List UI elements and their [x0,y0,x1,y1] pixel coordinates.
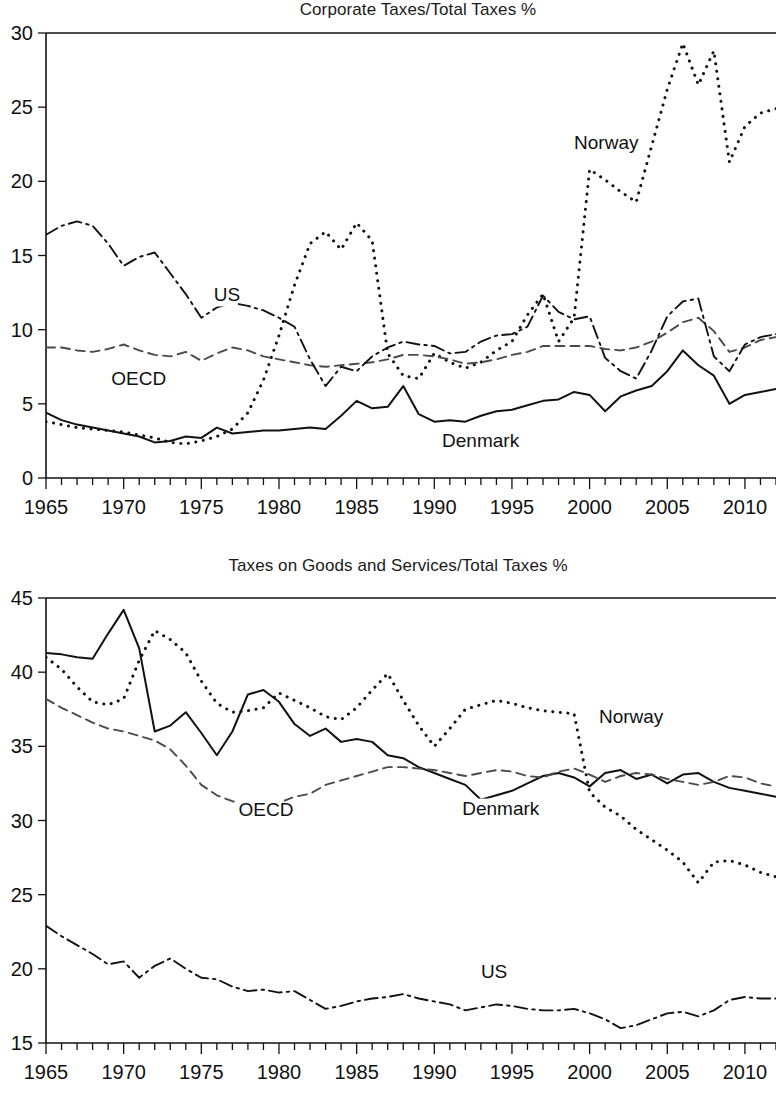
y-axis-tick-label: 5 [22,393,33,415]
x-axis-tick-label: 1990 [412,1061,457,1083]
y-axis-tick-label: 40 [11,661,33,683]
x-axis-tick-label: 1985 [334,1061,379,1083]
chart-title-corporate-taxes: Corporate Taxes/Total Taxes % [0,0,776,20]
y-axis-tick-label: 0 [22,467,33,489]
series-line-norway [46,631,776,883]
chart-title-goods-services-taxes: Taxes on Goods and Services/Total Taxes … [0,556,776,576]
series-label-denmark: Denmark [442,430,520,451]
chart-svg-corporate-taxes: 0510152025301965197019751980198519901995… [0,0,776,530]
series-label-oecd: OECD [111,368,166,389]
x-axis-tick-label: 1980 [257,1061,302,1083]
x-axis-tick-label: 2010 [723,1061,768,1083]
y-axis-tick-label: 25 [11,884,33,906]
chart-svg-goods-services-taxes: 1520253035404519651970197519801985199019… [0,556,776,1094]
series-label-oecd: OECD [239,799,294,820]
x-axis-tick-label: 2000 [567,1061,612,1083]
x-axis-tick-label: 2010 [723,496,768,518]
figure-two-panel-tax-charts: Corporate Taxes/Total Taxes % 0510152025… [0,0,776,1094]
x-axis-tick-label: 2000 [567,496,612,518]
series-label-norway: Norway [574,132,639,153]
chart-panel-goods-services-taxes: Taxes on Goods and Services/Total Taxes … [0,556,776,1094]
series-label-us: US [481,961,507,982]
y-axis-tick-label: 10 [11,319,33,341]
y-axis-tick-label: 30 [11,810,33,832]
x-axis-tick-label: 1965 [24,1061,69,1083]
x-axis-tick-label: 2005 [645,496,690,518]
x-axis-tick-label: 1965 [24,496,69,518]
y-axis-tick-label: 20 [11,958,33,980]
y-axis-tick-label: 25 [11,96,33,118]
series-line-us [46,926,776,1028]
x-axis-tick-label: 2005 [645,1061,690,1083]
series-label-denmark: Denmark [462,798,540,819]
y-axis-tick-label: 35 [11,735,33,757]
x-axis-tick-label: 1975 [179,1061,224,1083]
series-line-denmark [46,610,776,800]
series-label-norway: Norway [599,706,664,727]
x-axis-tick-label: 1970 [101,496,146,518]
y-axis-tick-label: 45 [11,587,33,609]
x-axis-tick-label: 1990 [412,496,457,518]
x-axis-tick-label: 1995 [490,496,535,518]
y-axis-tick-label: 30 [11,22,33,44]
series-line-oecd [46,699,776,806]
y-axis-tick-label: 20 [11,170,33,192]
chart-panel-corporate-taxes: Corporate Taxes/Total Taxes % 0510152025… [0,0,776,530]
y-axis-tick-label: 15 [11,245,33,267]
x-axis-tick-label: 1985 [334,496,379,518]
x-axis-tick-label: 1970 [101,1061,146,1083]
series-label-us: US [214,284,240,305]
x-axis-tick-label: 1980 [257,496,302,518]
y-axis-tick-label: 15 [11,1032,33,1054]
x-axis-tick-label: 1995 [490,1061,535,1083]
series-line-denmark [46,350,776,442]
x-axis-tick-label: 1975 [179,496,224,518]
series-line-us [46,221,776,386]
